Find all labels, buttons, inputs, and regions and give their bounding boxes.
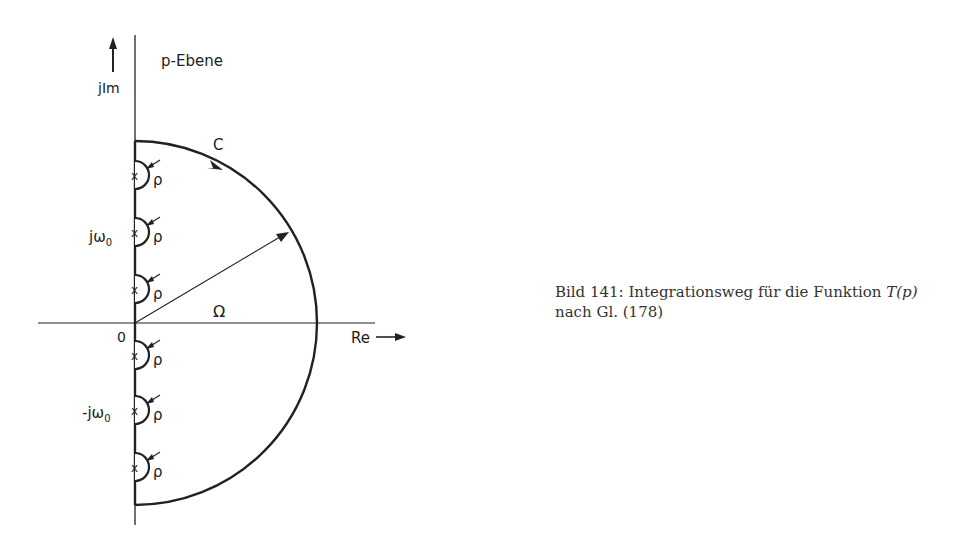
svg-text:x: x xyxy=(131,349,138,363)
rho-label: ρ xyxy=(153,406,163,424)
plane-label: p-Ebene xyxy=(161,52,223,70)
rho-label: ρ xyxy=(153,171,163,189)
rho-label: ρ xyxy=(153,463,163,481)
svg-text:x: x xyxy=(131,461,138,475)
imag-axis-arrow-icon xyxy=(109,37,117,72)
svg-text:x: x xyxy=(131,283,138,297)
svg-text:x: x xyxy=(131,404,138,418)
caption-line2: nach Gl. (178) xyxy=(555,303,663,321)
rho-label: ρ xyxy=(153,285,163,303)
caption-line1: Bild 141: Integrationsweg für die Funkti… xyxy=(555,283,886,301)
imag-axis-label: jIm xyxy=(97,80,120,96)
svg-text:x: x xyxy=(131,226,138,240)
origin-label: 0 xyxy=(117,329,126,345)
radius-label: Ω xyxy=(213,302,225,321)
real-axis-label: Re xyxy=(351,329,370,347)
caption-function: T(p) xyxy=(886,283,917,301)
contour-label: C xyxy=(213,136,223,154)
contour-diagram: x x x x x x ρ ρ ρ ρ ρ xyxy=(0,0,957,553)
rho-label: ρ xyxy=(153,351,163,369)
pole-label-negative: -jω0 xyxy=(82,404,111,424)
figure-caption: Bild 141: Integrationsweg für die Funkti… xyxy=(555,282,935,322)
rho-label: ρ xyxy=(153,228,163,246)
radius-arrow-icon xyxy=(276,232,289,242)
pole-label-positive: jω0 xyxy=(88,228,112,248)
real-axis-arrow-icon xyxy=(376,333,406,341)
radius-line xyxy=(135,234,285,323)
svg-text:x: x xyxy=(131,169,138,183)
